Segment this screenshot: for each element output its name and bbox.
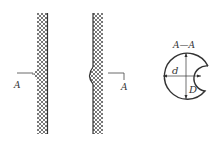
section-label-left: A	[13, 80, 21, 90]
section-label-right: A	[120, 82, 128, 92]
dimension-label-d: d	[172, 65, 178, 76]
right-wall-section	[90, 13, 104, 134]
section-marker-right: A	[108, 73, 128, 92]
left-wall-section	[34, 13, 48, 134]
section-marker-left: A	[13, 73, 33, 90]
diagram-canvas: A A A—A d D	[0, 0, 221, 146]
dimension-label-D: D	[188, 84, 197, 95]
section-view-circle	[163, 53, 208, 99]
section-view-title: A—A	[172, 40, 195, 50]
